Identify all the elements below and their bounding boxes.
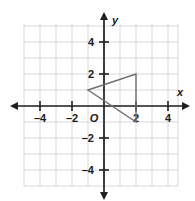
coordinate-plane-figure: –4 –2 2 4 4 2 –2 –4 O x y [0, 0, 195, 201]
axes [10, 12, 190, 200]
y-tick-label-neg2: –2 [82, 132, 94, 144]
y-axis-down-arrow-icon [100, 192, 108, 200]
grid-lines [24, 24, 178, 186]
y-tick-label-2: 2 [88, 68, 94, 80]
y-tick-label-neg4: –4 [82, 164, 95, 176]
x-axis-right-arrow-icon [182, 102, 190, 110]
x-tick-label-4: 4 [165, 112, 172, 124]
y-tick-label-4: 4 [88, 36, 95, 48]
y-axis-up-arrow-icon [100, 12, 108, 20]
x-axis-label: x [176, 86, 184, 98]
origin-label: O [90, 112, 99, 124]
x-axis-left-arrow-icon [10, 102, 18, 110]
coordinate-plane-svg: –4 –2 2 4 4 2 –2 –4 O x y [0, 0, 195, 201]
x-tick-label-neg4: –4 [34, 112, 47, 124]
y-axis-label: y [111, 14, 119, 26]
x-tick-label-neg2: –2 [66, 112, 78, 124]
